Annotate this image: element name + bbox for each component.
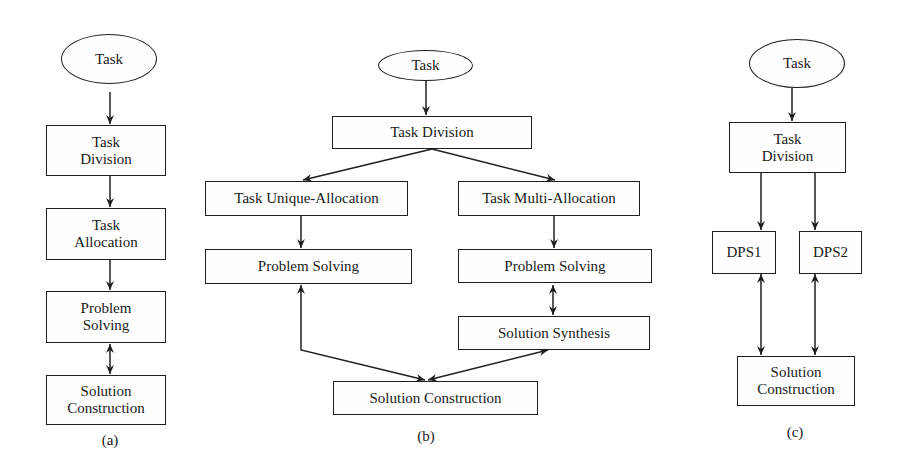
arrow-b-division-to-multi <box>432 149 555 180</box>
node-c-dps1: DPS1 <box>712 231 776 274</box>
node-c-solution-construction: Solution Construction <box>737 356 855 406</box>
caption-c: (c) <box>775 424 815 441</box>
node-a-task-label: Task <box>95 51 123 68</box>
node-c-dps1-label: DPS1 <box>726 244 761 261</box>
node-c-task: Task <box>749 39 845 88</box>
node-c-task-division: Task Division <box>729 122 846 173</box>
arrow-b-construction-to-left-solving <box>301 285 425 380</box>
node-b-problem-solving-right: Problem Solving <box>458 249 652 283</box>
node-b-task-label: Task <box>411 57 439 74</box>
node-a-solution-construction-label: Solution Construction <box>67 383 145 417</box>
node-a-task-allocation: Task Allocation <box>46 208 166 260</box>
node-a-task: Task <box>61 34 157 84</box>
node-b-task-unique-allocation-label: Task Unique-Allocation <box>234 190 378 207</box>
node-b-task-multi-allocation: Task Multi-Allocation <box>458 181 640 216</box>
node-b-task: Task <box>378 50 473 81</box>
arrow-b-division-to-unique <box>303 149 432 180</box>
node-a-task-division-label: Task Division <box>80 134 132 168</box>
caption-b: (b) <box>406 428 446 445</box>
node-b-solution-synthesis-label: Solution Synthesis <box>498 325 610 342</box>
node-b-solution-synthesis: Solution Synthesis <box>458 316 650 350</box>
node-b-task-unique-allocation: Task Unique-Allocation <box>205 181 408 216</box>
node-c-solution-construction-label: Solution Construction <box>757 364 835 398</box>
node-c-dps2-label: DPS2 <box>813 244 848 261</box>
node-a-problem-solving-label: Problem Solving <box>81 300 132 334</box>
node-c-task-label: Task <box>783 55 811 72</box>
arrow-b-construction-to-synthesis <box>428 350 548 380</box>
caption-a: (a) <box>90 432 130 449</box>
node-b-solution-construction: Solution Construction <box>333 381 538 415</box>
node-b-task-division: Task Division <box>332 116 532 149</box>
node-a-task-division: Task Division <box>46 125 166 176</box>
node-b-problem-solving-left-label: Problem Solving <box>258 258 359 275</box>
node-a-solution-construction: Solution Construction <box>46 375 166 425</box>
node-c-task-division-label: Task Division <box>762 131 814 165</box>
node-b-task-multi-allocation-label: Task Multi-Allocation <box>482 190 616 207</box>
node-b-solution-construction-label: Solution Construction <box>369 390 501 407</box>
node-c-dps2: DPS2 <box>799 231 862 274</box>
node-b-task-division-label: Task Division <box>390 124 474 141</box>
node-b-problem-solving-right-label: Problem Solving <box>504 258 605 275</box>
node-a-problem-solving: Problem Solving <box>46 291 166 343</box>
node-b-problem-solving-left: Problem Solving <box>205 249 412 284</box>
node-a-task-allocation-label: Task Allocation <box>74 217 137 251</box>
